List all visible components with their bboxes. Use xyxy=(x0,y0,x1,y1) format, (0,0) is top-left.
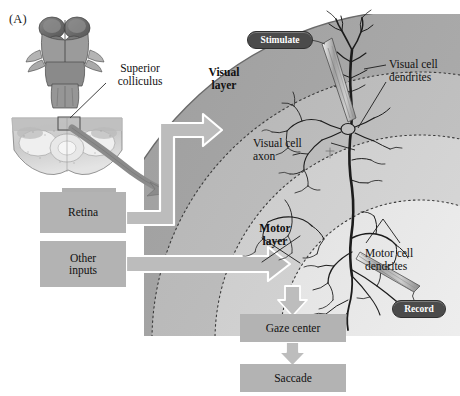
midbrain-cross-section xyxy=(12,117,122,175)
visual-cell-dendrites-label: Visual cell dendrites xyxy=(389,58,457,83)
record-badge[interactable]: Record xyxy=(392,300,446,318)
brainstem-illustration xyxy=(26,17,104,108)
gaze-center-box[interactable]: Gaze center xyxy=(240,314,346,342)
motor-cell-dendrites-label: Motor cell dendrites xyxy=(365,247,435,272)
figure-panel-a: (A) xyxy=(0,0,460,396)
saccade-box[interactable]: Saccade xyxy=(240,364,346,392)
visual-layer-label: Visual layer xyxy=(196,66,252,91)
other-inputs-box[interactable]: Other inputs xyxy=(40,241,126,287)
retina-box[interactable]: Retina xyxy=(40,192,126,233)
stimulate-badge[interactable]: Stimulate xyxy=(247,31,313,49)
motor-layer-label: Motor layer xyxy=(248,222,302,247)
superior-colliculus-label: Superior colliculus xyxy=(104,62,176,87)
saccade-arrow xyxy=(279,342,306,366)
visual-cell-axon-label: Visual cell axon xyxy=(253,137,319,162)
